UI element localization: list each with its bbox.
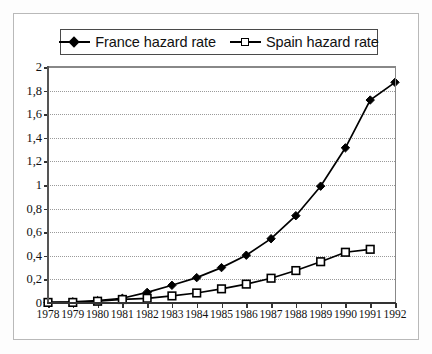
x-tick-label: 1992 (384, 308, 407, 320)
x-tick-label: 1987 (260, 308, 283, 320)
y-tick-label: 2 (36, 60, 42, 75)
x-tick-label: 1981 (111, 308, 134, 320)
y-tick-label: 1,6 (26, 107, 42, 122)
data-point-france (168, 281, 176, 289)
y-tick-label: 0,4 (26, 248, 42, 263)
x-tick-label: 1980 (86, 308, 109, 320)
series-layer (48, 67, 395, 303)
filled-diamond-marker-icon (59, 36, 90, 48)
x-tick-label: 1982 (136, 308, 159, 320)
legend-label-france: France hazard rate (95, 34, 216, 50)
legend-entry-france: France hazard rate (59, 34, 216, 50)
y-tick-label: 0,2 (26, 272, 42, 287)
data-point-spain (342, 248, 350, 256)
x-tick-label: 1978 (37, 308, 60, 320)
data-point-spain (193, 289, 201, 297)
axis-left-spine (47, 66, 49, 304)
data-point-spain (143, 294, 151, 302)
axis-top-spine (47, 66, 396, 68)
y-tick-label: 0,8 (26, 201, 42, 216)
x-tick-label: 1989 (309, 308, 332, 320)
x-tick-label: 1988 (284, 308, 307, 320)
x-tick-label: 1986 (235, 308, 258, 320)
legend-label-spain: Spain hazard rate (266, 34, 379, 50)
axis-right-spine (395, 66, 397, 304)
data-point-spain (292, 267, 300, 275)
y-tick-label: 0,6 (26, 225, 42, 240)
x-tick-label: 1979 (61, 308, 84, 320)
legend-entry-spain: Spain hazard rate (230, 34, 379, 50)
data-point-spain (242, 280, 250, 288)
x-tick-label: 1991 (359, 308, 382, 320)
open-square-marker-icon (230, 36, 261, 48)
data-point-spain (366, 246, 374, 254)
chart-figure: France hazard rate Spain hazard rate 00,… (0, 0, 432, 354)
data-point-spain (267, 274, 275, 282)
plot-area: 00,20,40,60,811,21,41,61,82 197819791980… (48, 67, 395, 303)
x-tick-label: 1984 (185, 308, 208, 320)
y-tick-label: 1,4 (26, 130, 42, 145)
y-tick-label: 1,2 (26, 154, 42, 169)
data-point-spain (168, 292, 176, 300)
data-point-france (217, 263, 225, 271)
data-point-france (341, 144, 349, 152)
x-tick-label: 1990 (334, 308, 357, 320)
x-tick-label: 1985 (210, 308, 233, 320)
y-tick-label: 1 (36, 178, 42, 193)
axis-bottom-spine (47, 302, 396, 304)
y-tick-label: 1,8 (26, 83, 42, 98)
data-point-spain (218, 285, 226, 293)
data-point-spain (317, 258, 325, 266)
chart-legend: France hazard rate Spain hazard rate (60, 29, 378, 55)
data-point-france (193, 273, 201, 281)
x-tick-label: 1983 (160, 308, 183, 320)
